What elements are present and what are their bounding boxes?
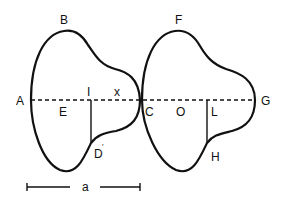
diagram-canvas: B A E I x D ′ C F G O L H a <box>0 0 284 205</box>
label-b: B <box>60 13 68 27</box>
label-o: O <box>176 105 185 119</box>
left-shape-outline <box>31 31 140 172</box>
label-x: x <box>114 85 120 99</box>
label-i: I <box>87 85 90 99</box>
label-a-point: A <box>16 94 24 108</box>
label-l: L <box>211 105 218 119</box>
label-g: G <box>261 94 270 108</box>
label-d-prime: ′ <box>102 142 104 151</box>
right-shape-outline <box>142 31 255 172</box>
label-f: F <box>175 13 182 27</box>
scale-label-a: a <box>82 180 89 194</box>
label-h: H <box>211 150 220 164</box>
label-e: E <box>59 105 67 119</box>
scale-bar: a <box>27 180 140 194</box>
label-c: C <box>145 105 154 119</box>
